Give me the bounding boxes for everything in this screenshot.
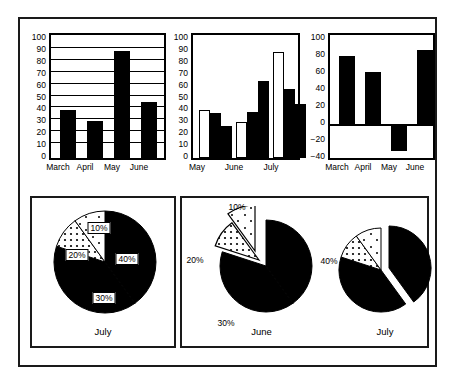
bar xyxy=(339,56,355,124)
y-tick-label: 20 xyxy=(168,128,188,137)
pie-svg xyxy=(335,218,435,318)
pie-chart-july-boxed: 40% 30% 20% 10% xyxy=(51,208,159,316)
bar-chart-1: 100 90 80 70 60 50 40 30 20 10 0 xyxy=(26,33,166,173)
pie-slice-label: 20% xyxy=(65,249,88,261)
bar xyxy=(391,124,407,151)
pie-slice-label: 10% xyxy=(228,202,245,212)
bar xyxy=(60,110,76,158)
bar xyxy=(199,110,210,158)
y-tick-label: 30 xyxy=(26,116,46,125)
y-tick-label: 0 xyxy=(303,118,325,127)
x-tick-label: June xyxy=(124,162,154,172)
pie-panel-left: 40% 30% 20% 10% July xyxy=(30,196,176,348)
bar xyxy=(210,113,221,158)
figure-outer-frame: 100 90 80 70 60 50 40 30 20 10 0 xyxy=(18,17,437,367)
bar xyxy=(221,126,232,158)
bar-chart-1-y-axis: 100 90 80 70 60 50 40 30 20 10 0 xyxy=(26,33,46,158)
y-tick-label: 10 xyxy=(168,140,188,149)
y-tick-label: 100 xyxy=(303,33,325,42)
pie-caption: July xyxy=(335,326,435,337)
bar xyxy=(114,51,130,158)
bar-chart-3-y-axis: 100 80 60 40 20 0 −20 −40 xyxy=(303,33,325,158)
y-tick-label: 70 xyxy=(26,68,46,77)
gridline xyxy=(51,83,164,84)
pie-chart-july-exploded xyxy=(335,218,435,318)
pie-panel-right: 40% 30% 20% 10% xyxy=(180,196,429,348)
y-tick-label: 30 xyxy=(168,116,188,125)
y-tick-label: 70 xyxy=(168,68,188,77)
y-tick-label: 50 xyxy=(168,92,188,101)
pie-slice-label: 20% xyxy=(186,255,203,265)
bar-chart-2-plot-area xyxy=(191,33,300,160)
y-tick-label: 60 xyxy=(303,67,325,76)
y-tick-label: 0 xyxy=(26,152,46,161)
y-tick-label: −20 xyxy=(303,135,325,144)
gridline xyxy=(51,95,164,96)
pie-svg xyxy=(204,206,319,321)
y-tick-label: 100 xyxy=(168,33,188,42)
bar xyxy=(273,52,284,158)
x-tick-label: July xyxy=(256,162,286,172)
bar xyxy=(365,72,381,124)
gridline xyxy=(51,47,164,48)
bar xyxy=(87,121,103,158)
x-tick-label: April xyxy=(70,162,100,172)
y-tick-label: 10 xyxy=(26,140,46,149)
zero-axis-line xyxy=(330,124,433,126)
y-tick-label: 20 xyxy=(26,128,46,137)
pie-slice-label: 30% xyxy=(92,292,115,304)
bar xyxy=(284,89,295,158)
pie-slice-label: 10% xyxy=(87,222,110,234)
bar xyxy=(258,81,269,158)
x-tick-label: May xyxy=(182,162,212,172)
pie-caption: July xyxy=(32,326,174,337)
bar-chart-2: 100 90 80 70 60 50 40 30 20 10 0 Ma xyxy=(168,33,300,173)
bar-chart-1-plot-area xyxy=(49,33,166,160)
y-tick-label: 90 xyxy=(168,44,188,53)
bar xyxy=(236,122,247,158)
y-tick-label: 60 xyxy=(26,80,46,89)
pie-slice-label: 40% xyxy=(115,253,138,265)
y-tick-label: 40 xyxy=(303,84,325,93)
bar xyxy=(141,102,157,158)
y-tick-label: 50 xyxy=(26,92,46,101)
bar-chart-3-plot-area xyxy=(328,33,435,160)
x-tick-label: June xyxy=(400,162,430,172)
y-tick-label: 80 xyxy=(303,50,325,59)
y-tick-label: 90 xyxy=(26,44,46,53)
y-tick-label: 100 xyxy=(26,33,46,42)
y-tick-label: −40 xyxy=(303,152,325,161)
y-tick-label: 0 xyxy=(168,152,188,161)
gridline xyxy=(51,59,164,60)
y-tick-label: 40 xyxy=(26,104,46,113)
y-tick-label: 20 xyxy=(303,101,325,110)
bar-chart-3: 100 80 60 40 20 0 −20 −40 March April Ma… xyxy=(303,33,435,173)
pie-caption: June xyxy=(204,326,319,337)
x-tick-label: March xyxy=(43,162,73,172)
x-tick-label: May xyxy=(97,162,127,172)
y-tick-label: 80 xyxy=(168,56,188,65)
x-tick-label: June xyxy=(219,162,249,172)
bar xyxy=(417,50,433,124)
y-tick-label: 80 xyxy=(26,56,46,65)
bar xyxy=(247,112,258,158)
bar-chart-2-y-axis: 100 90 80 70 60 50 40 30 20 10 0 xyxy=(168,33,188,158)
pie-chart-june: 40% 30% 20% 10% xyxy=(204,206,319,321)
y-tick-label: 40 xyxy=(168,104,188,113)
y-tick-label: 60 xyxy=(168,80,188,89)
gridline xyxy=(51,71,164,72)
